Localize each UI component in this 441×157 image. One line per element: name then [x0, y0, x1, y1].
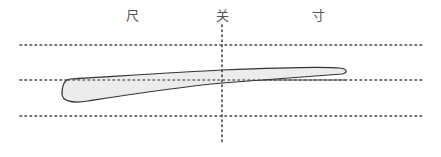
pulse-shape: [62, 67, 346, 102]
diagram-canvas: [0, 0, 441, 157]
pulse-position-diagram: 尺 关 寸: [0, 0, 441, 157]
